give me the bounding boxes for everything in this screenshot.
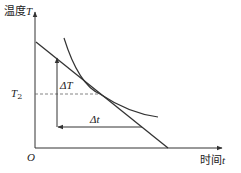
delta-t-label: Δt (90, 114, 100, 125)
x-axis-label: 时间t (200, 155, 225, 166)
delta-T-label: ΔT (60, 80, 73, 91)
y-axis-label: 温度T (4, 6, 32, 17)
cooling-curve (64, 38, 158, 117)
origin-label: O (27, 152, 35, 163)
temperature-time-diagram (0, 0, 241, 173)
t2-label: T2 (11, 88, 22, 101)
